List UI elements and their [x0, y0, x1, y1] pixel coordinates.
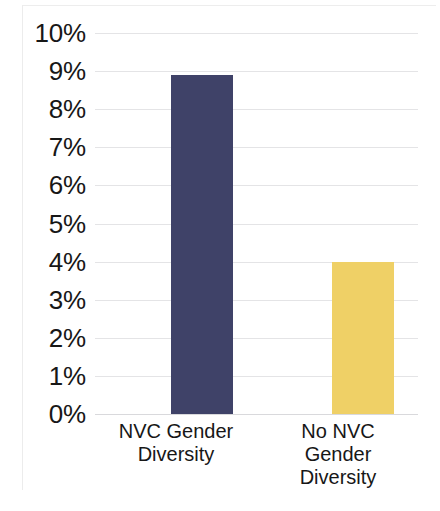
- y-tick-label-8%: 8%: [49, 96, 86, 122]
- bar-chart-figure: 10%9%8%7%6%5%4%3%2%1%0% NVC GenderDivers…: [0, 0, 440, 511]
- gridline-6%: [95, 185, 418, 186]
- y-tick-label-9%: 9%: [49, 58, 86, 84]
- y-tick-label-5%: 5%: [49, 211, 86, 237]
- gridline-10%: [95, 33, 418, 34]
- y-tick-label-4%: 4%: [49, 249, 86, 275]
- x-tick-label-2: No NVCGenderDiversity: [257, 420, 419, 489]
- y-axis: 10%9%8%7%6%5%4%3%2%1%0%: [0, 0, 95, 447]
- x-tick-label-line: NVC Gender: [95, 420, 257, 443]
- gridline-5%: [95, 224, 418, 225]
- x-tick-label-line: Gender: [257, 443, 419, 466]
- x-tick-label-line: No NVC: [257, 420, 419, 443]
- y-tick-label-2%: 2%: [49, 325, 86, 351]
- y-tick-label-1%: 1%: [49, 363, 86, 389]
- y-tick-label-7%: 7%: [49, 134, 86, 160]
- plot-area: [95, 33, 418, 414]
- x-tick-label-line: Diversity: [95, 443, 257, 466]
- bar-2: [332, 262, 394, 414]
- gridline-7%: [95, 147, 418, 148]
- y-tick-label-3%: 3%: [49, 287, 86, 313]
- y-tick-label-6%: 6%: [49, 172, 86, 198]
- x-tick-label-line: Diversity: [257, 466, 419, 489]
- gridline-8%: [95, 109, 418, 110]
- bar-1: [171, 75, 233, 414]
- y-tick-label-0%: 0%: [49, 401, 86, 427]
- y-tick-label-10%: 10%: [35, 20, 86, 46]
- gridline-0%: [95, 414, 418, 415]
- x-tick-label-1: NVC GenderDiversity: [95, 420, 257, 466]
- x-axis: NVC GenderDiversityNo NVCGenderDiversity: [95, 420, 418, 510]
- gridline-9%: [95, 71, 418, 72]
